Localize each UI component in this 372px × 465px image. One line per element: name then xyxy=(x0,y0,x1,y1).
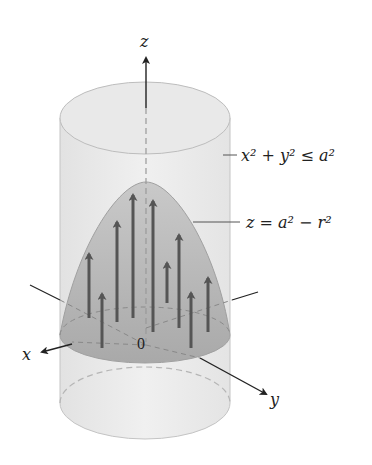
z-axis-label: z xyxy=(139,32,149,51)
y-axis-label: y xyxy=(269,390,280,409)
x-axis-back xyxy=(30,285,60,300)
diagram-canvas: z x y 0 x² + y² ≤ a² z = a² − r² xyxy=(0,0,372,465)
y-axis-back xyxy=(232,292,258,300)
x-axis-label: x xyxy=(22,345,31,364)
cylinder-label: x² + y² ≤ a² xyxy=(241,146,335,165)
paraboloid-label: z = a² − r² xyxy=(245,213,332,232)
origin-label: 0 xyxy=(137,335,145,352)
